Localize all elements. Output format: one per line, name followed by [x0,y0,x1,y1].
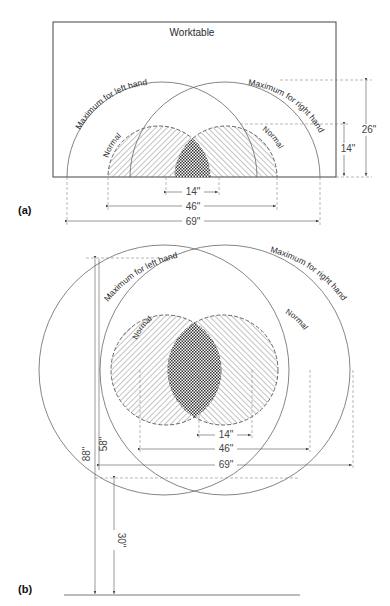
panel-label-b: (b) [18,583,32,595]
max-left-label-a: Maximum for left hand [73,77,148,131]
figure-a: Worktable Maximum for left hand Maximum … [18,22,380,272]
dim-max-b: 69" [219,459,234,470]
work-area-diagram: Worktable Maximum for left hand Maximum … [0,0,390,606]
normal-right-label-b: Normal [284,307,310,332]
dim-normal-b: 46" [219,443,234,454]
max-right-label-a: Maximum for right hand [248,77,327,134]
worktable-label: Worktable [170,27,215,38]
dim-max-a: 69" [186,216,201,227]
dim-total-height-b: 88" [81,446,92,461]
dim-seat-height-b: 30" [116,533,127,548]
dim-normal-depth-a: 14" [341,143,356,154]
dim-overlap-a: 14" [186,186,201,197]
dim-max-depth-a: 26" [362,124,377,135]
dim-normal-a: 46" [186,201,201,212]
dim-overlap-b: 14" [219,429,234,440]
panel-label-a: (a) [18,204,32,216]
dim-reach-height-b: 58" [98,436,109,451]
figure-b: Maximum for left hand Maximum for right … [18,244,353,595]
max-right-label-b: Maximum for right hand [269,244,349,302]
